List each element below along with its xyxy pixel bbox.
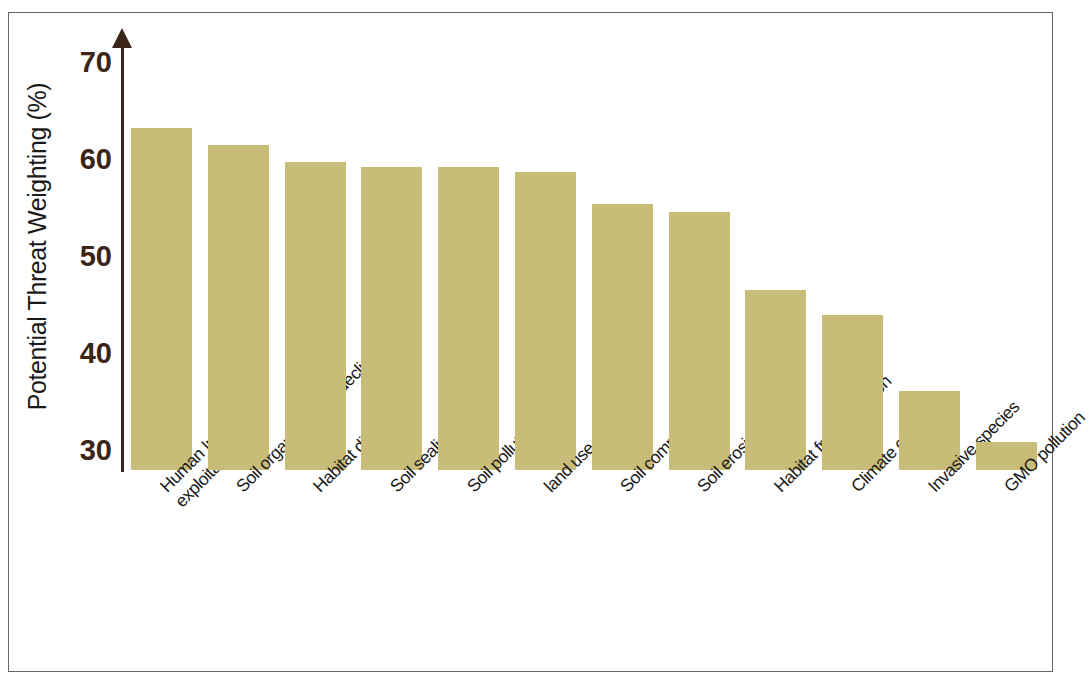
bar-9: [745, 290, 806, 470]
bar-2: [208, 145, 269, 470]
bar-10: [822, 315, 883, 470]
bar-1: [131, 128, 192, 470]
bar-4: [361, 167, 422, 470]
bar-7: [592, 204, 653, 470]
bar-8: [669, 212, 730, 470]
bar-3: [285, 162, 346, 470]
bar-6: [515, 172, 576, 470]
bar-5: [438, 167, 499, 470]
